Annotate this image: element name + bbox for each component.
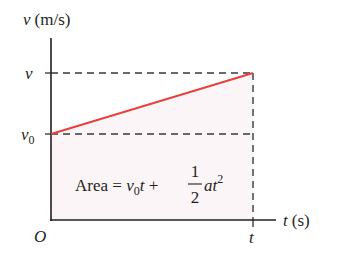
y-tick-label-v0: v0 [21, 125, 35, 147]
x-axis-label: t(s) [283, 211, 310, 230]
formula-main: Area = v0t + [75, 176, 158, 198]
fraction-denominator: 2 [191, 188, 200, 207]
y-axis-label: v(m/s) [23, 10, 70, 29]
x-tick-label-t: t [249, 228, 255, 247]
y-tick-label-v: v [25, 64, 33, 83]
velocity-time-graph: v(m/s) v v0 O t t(s) Area = v0t + 1 2 at… [0, 0, 341, 273]
area-shading [51, 73, 253, 220]
fraction-numerator: 1 [191, 162, 200, 181]
origin-label: O [34, 227, 46, 246]
